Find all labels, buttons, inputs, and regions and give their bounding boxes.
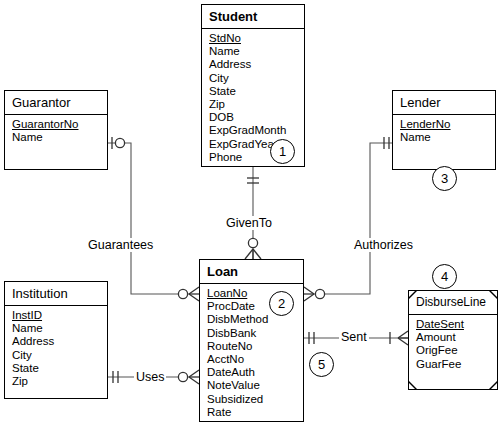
attribute-lender-name: Name [400,131,489,144]
badge-student: 1 [270,139,295,164]
attribute-inst-state: State [12,362,101,375]
entity-disburseline-title: DisburseLine [409,291,497,315]
attribute-guarantor-name: Name [12,131,101,144]
entity-lender-title: Lender [393,91,495,115]
badge-loan: 2 [269,291,294,316]
attribute-instid: InstID [12,309,101,322]
entity-lender[interactable]: Lender LenderNo Name [392,90,496,170]
attribute-inst-zip: Zip [12,375,101,388]
attribute-lenderno: LenderNo [400,118,489,131]
relationship-label-sent: Sent [339,330,369,344]
attribute-routeno: RouteNo [207,340,297,353]
attribute-inst-city: City [12,349,101,362]
entity-student-title: Student [202,5,304,29]
attribute-expgradmonth: ExpGradMonth [209,124,298,137]
relationship-label-givento: GivenTo [224,216,274,230]
attribute-inst-address: Address [12,335,101,348]
entity-loan-title: Loan [200,260,303,284]
entity-disburseline[interactable]: DisburseLine DateSent Amount OrigFee Gua… [408,290,498,390]
attribute-disbbank: DisbBank [207,327,297,340]
entity-institution-title: Institution [5,282,107,306]
attribute-state: State [209,85,298,98]
attribute-address: Address [209,58,298,71]
entity-guarantor[interactable]: Guarantor GuarantorNo Name [4,90,108,170]
attribute-subsidized: Subsidized [207,393,297,406]
entity-institution-attributes: InstID Name Address City State Zip [5,306,107,392]
attribute-dateauth: DateAuth [207,366,297,379]
attribute-acctno: AcctNo [207,353,297,366]
entity-guarantor-attributes: GuarantorNo Name [5,115,107,148]
attribute-dob: DOB [209,111,298,124]
entity-institution[interactable]: Institution InstID Name Address City Sta… [4,281,108,399]
attribute-name: Name [209,45,298,58]
edge-guarantees [108,143,190,294]
attribute-rate: Rate [207,406,297,419]
attribute-guarantorno: GuarantorNo [12,118,101,131]
entity-disburseline-attributes: DateSent Amount OrigFee GuarFee [409,315,497,375]
attribute-zip: Zip [209,98,298,111]
attribute-inst-name: Name [12,322,101,335]
attribute-guarfee: GuarFee [416,358,491,371]
attribute-city: City [209,72,298,85]
attribute-amount: Amount [416,331,491,344]
badge-disburseline: 4 [432,264,457,289]
er-diagram-canvas: Student StdNo Name Address City State Zi… [0,0,502,425]
badge-lender: 3 [432,166,457,191]
entity-lender-attributes: LenderNo Name [393,115,495,148]
entity-loan[interactable]: Loan LoanNo ProcDate DisbMethod DisbBank… [199,259,304,422]
entity-guarantor-title: Guarantor [5,91,107,115]
attribute-notevalue: NoteValue [207,379,297,392]
relationship-label-guarantees: Guarantees [86,238,155,252]
relationship-label-authorizes: Authorizes [352,238,415,252]
attribute-origfee: OrigFee [416,344,491,357]
edge-authorizes [313,143,392,294]
attribute-datesent: DateSent [416,318,491,331]
relationship-label-uses: Uses [134,370,166,384]
badge-sent: 5 [309,352,334,377]
attribute-stdno: StdNo [209,32,298,45]
